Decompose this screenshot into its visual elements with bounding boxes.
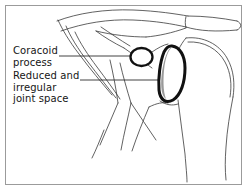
joint-space-label: Reduced and irregular joint space bbox=[13, 70, 79, 105]
acromion-superior-edge bbox=[188, 16, 237, 21]
joint-space-label-line1: Reduced and bbox=[13, 70, 79, 82]
coracoid-process-label-line1: Coracoid bbox=[13, 45, 58, 57]
joint-space-label-line2: irregular bbox=[13, 82, 79, 94]
acromioclavicular-joint-line bbox=[185, 17, 186, 28]
humeral-surgical-neck bbox=[225, 97, 233, 180]
coracoid-process-label: Coracoid process bbox=[13, 45, 58, 68]
scapular-neck-right bbox=[120, 63, 131, 103]
coracoid-process-label-line2: process bbox=[13, 57, 58, 69]
rib-shadow-stroke bbox=[92, 130, 104, 158]
acromion-lateral-edge bbox=[237, 21, 241, 30]
clavicle-superior-border bbox=[57, 10, 188, 21]
scapular-neck-left bbox=[110, 60, 118, 103]
humeral-head-inner-contour bbox=[188, 42, 231, 97]
axillary-fold-line bbox=[132, 107, 149, 151]
bone-outline-strokes bbox=[57, 10, 241, 182]
scapula-inferior-border bbox=[100, 103, 118, 145]
scapula-lateral-tail bbox=[131, 103, 156, 140]
clavicle-inferior-border bbox=[61, 20, 186, 31]
scapula-axillary-border bbox=[121, 103, 131, 150]
joint-space-outline bbox=[159, 46, 185, 102]
acromion-inferior-edge bbox=[186, 27, 237, 31]
coracoid-process-circle bbox=[131, 48, 153, 66]
shoulder-diagram-figure: Coracoid process Reduced and irregular j… bbox=[0, 0, 247, 191]
joint-space-label-line3: joint space bbox=[13, 93, 79, 105]
acromion-undersurface bbox=[146, 28, 186, 37]
humeral-shaft-medial bbox=[178, 100, 187, 182]
